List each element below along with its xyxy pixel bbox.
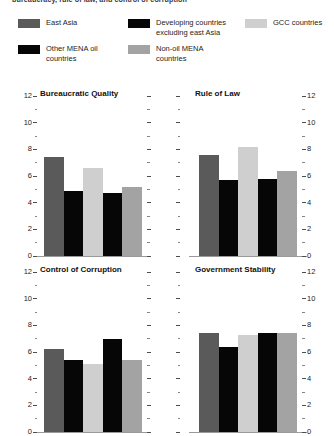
y-tick-major <box>176 149 180 150</box>
y-tick-major <box>176 405 180 406</box>
figure-caption-strip: bureaucracy, rule of law, and control of… <box>0 0 334 9</box>
y-tick-major <box>302 176 306 177</box>
bar-group <box>44 96 142 256</box>
y-tick-minor <box>35 216 38 217</box>
bar[interactable] <box>44 349 64 432</box>
bar[interactable] <box>44 157 64 256</box>
bar[interactable] <box>277 171 297 256</box>
y-tick-label: 12 <box>24 92 32 100</box>
bar[interactable] <box>258 333 278 432</box>
y-tick-major <box>33 122 37 123</box>
y-tick-label: 12 <box>307 268 315 276</box>
chart-panel-grid: Bureaucratic Quality024681012Rule of Law… <box>0 84 334 436</box>
x-axis-baseline <box>36 432 150 433</box>
y-tick-major <box>147 229 151 230</box>
y-tick-minor <box>35 109 38 110</box>
x-axis-baseline <box>36 256 150 257</box>
y-axis-right: 024681012 <box>301 272 334 432</box>
y-tick-minor <box>178 338 181 339</box>
bar[interactable] <box>219 180 239 256</box>
bar[interactable] <box>83 364 103 432</box>
legend-east-asia[interactable]: East Asia <box>18 18 77 28</box>
y-tick-major <box>33 432 37 433</box>
y-tick-label: 8 <box>307 145 311 153</box>
y-tick-minor <box>147 136 150 137</box>
bar[interactable] <box>277 333 297 432</box>
chart-legend: East AsiaDeveloping countries excluding … <box>0 16 334 78</box>
y-tick-label: 4 <box>28 375 32 383</box>
y-tick-label: 2 <box>28 401 32 409</box>
y-tick-label: 8 <box>28 321 32 329</box>
bar[interactable] <box>122 187 142 256</box>
y-tick-minor <box>35 312 38 313</box>
y-tick-minor <box>302 189 305 190</box>
chart-panel: Government Stability024681012 <box>167 260 334 436</box>
y-tick-minor <box>35 338 38 339</box>
y-tick-minor <box>147 338 150 339</box>
y-tick-major <box>176 298 180 299</box>
y-tick-minor <box>147 109 150 110</box>
y-tick-major <box>33 256 37 257</box>
y-tick-label: 6 <box>307 348 311 356</box>
y-tick-major <box>302 432 306 433</box>
bar[interactable] <box>64 191 84 256</box>
y-tick-label: 12 <box>307 92 315 100</box>
y-tick-major <box>302 325 306 326</box>
bar[interactable] <box>199 155 219 256</box>
y-tick-label: 2 <box>307 225 311 233</box>
legend-developing-excluding-east-asia[interactable]: Developing countries excluding east Asia <box>128 18 234 37</box>
bar[interactable] <box>122 360 142 432</box>
y-tick-minor <box>302 109 305 110</box>
chart-plot-area <box>199 272 297 433</box>
legend-swatch-icon <box>18 45 40 54</box>
y-tick-major <box>176 256 180 257</box>
legend-gcc-countries[interactable]: GCC countries <box>245 18 322 28</box>
y-tick-minor <box>147 216 150 217</box>
x-axis-baseline <box>189 256 307 257</box>
bar[interactable] <box>199 333 219 432</box>
y-tick-major <box>147 122 151 123</box>
y-tick-major <box>147 272 151 273</box>
y-tick-major <box>147 298 151 299</box>
y-tick-minor <box>302 162 305 163</box>
y-tick-major <box>147 405 151 406</box>
y-tick-minor <box>147 242 150 243</box>
legend-swatch-icon <box>18 19 40 28</box>
y-axis-left <box>155 272 181 432</box>
bar[interactable] <box>103 339 123 432</box>
y-tick-major <box>176 229 180 230</box>
y-tick-major <box>302 229 306 230</box>
y-tick-minor <box>178 109 181 110</box>
bar[interactable] <box>83 168 103 256</box>
y-tick-minor <box>178 312 181 313</box>
bar[interactable] <box>258 179 278 256</box>
y-tick-major <box>302 352 306 353</box>
y-tick-major <box>147 352 151 353</box>
bar[interactable] <box>238 147 258 256</box>
y-tick-label: 10 <box>307 119 315 127</box>
legend-swatch-icon <box>128 19 150 28</box>
legend-other-mena-oil-countries[interactable]: Other MENA oil countries <box>18 44 124 63</box>
bar[interactable] <box>64 360 84 432</box>
chart-plot-area <box>199 96 297 257</box>
y-tick-label: 12 <box>24 268 32 276</box>
bar[interactable] <box>219 347 239 432</box>
y-tick-label: 4 <box>307 375 311 383</box>
y-tick-minor <box>178 216 181 217</box>
y-tick-major <box>176 176 180 177</box>
y-tick-minor <box>302 242 305 243</box>
y-tick-label: 0 <box>28 428 32 436</box>
y-tick-major <box>33 202 37 203</box>
legend-non-oil-mena-countries[interactable]: Non-oil MENA countries <box>128 44 234 63</box>
y-tick-major <box>33 405 37 406</box>
y-tick-major <box>176 325 180 326</box>
y-tick-minor <box>178 242 181 243</box>
y-tick-major <box>176 202 180 203</box>
y-tick-label: 10 <box>24 295 32 303</box>
bar[interactable] <box>238 335 258 432</box>
y-tick-minor <box>178 136 181 137</box>
y-tick-minor <box>178 162 181 163</box>
legend-item-label: Developing countries excluding east Asia <box>156 18 234 37</box>
bar[interactable] <box>103 193 123 256</box>
y-tick-minor <box>147 285 150 286</box>
